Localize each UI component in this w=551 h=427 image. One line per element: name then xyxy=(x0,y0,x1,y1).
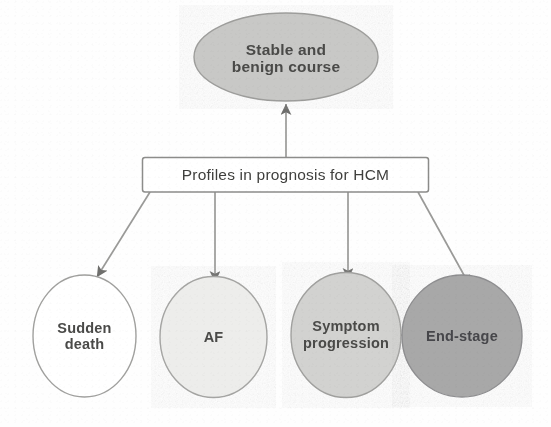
ellipse-stable-benign-course[interactable] xyxy=(194,13,378,101)
ellipse-end-stage[interactable] xyxy=(402,275,522,397)
ellipse-af[interactable] xyxy=(160,277,267,398)
box-profiles-in-prognosis[interactable] xyxy=(143,158,429,193)
cropped-caption xyxy=(18,406,348,422)
edge-profiles-to-endstage xyxy=(418,192,470,286)
ellipse-symptom-progression[interactable] xyxy=(291,273,401,398)
ellipse-sudden-death[interactable] xyxy=(33,275,136,397)
edge-profiles-to-sudden xyxy=(97,192,150,277)
diagram-canvas xyxy=(0,0,551,427)
